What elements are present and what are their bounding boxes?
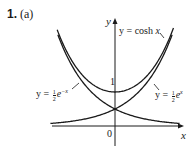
right-exp-label: y = 12ex: [155, 89, 183, 103]
cosh-pointer: [160, 33, 164, 38]
y-axis-label: y: [106, 16, 111, 27]
origin-label: 0: [107, 129, 112, 139]
y-axis-arrow-icon: [113, 18, 118, 24]
x-axis-arrow-icon: [178, 124, 184, 129]
cosh-label: y = cosh x: [119, 26, 160, 36]
left-exp-label: y = 12e−x: [36, 88, 68, 102]
x-axis-label: x: [181, 130, 186, 141]
half-exp-neg-curve: [58, 35, 180, 124]
y-tick-1-label: 1: [110, 77, 115, 87]
graph: [0, 0, 195, 147]
left-pointer: [72, 83, 79, 89]
